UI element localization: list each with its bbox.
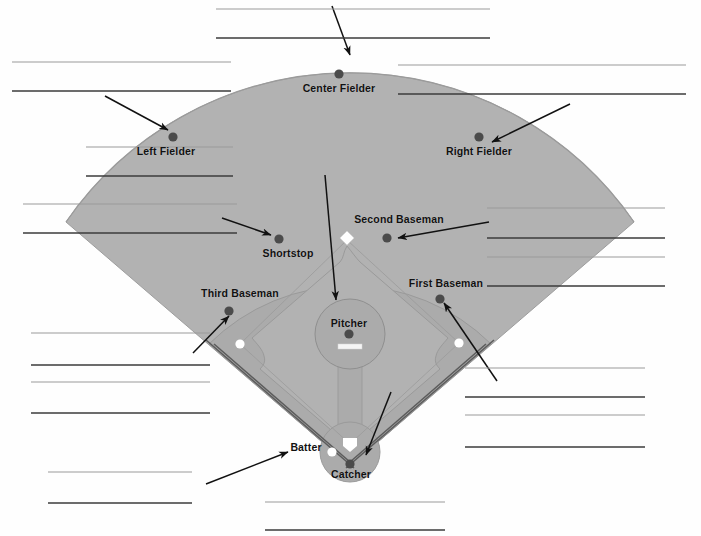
label-first-baseman: First Baseman [409,277,483,289]
label-pitcher: Pitcher [331,317,368,329]
pitching-rubber [338,344,362,349]
marker-third-baseman [224,306,233,315]
arrow-left-fielder [105,96,168,130]
marker-first-baseman [435,294,444,303]
baseball-field-diagram [0,0,701,536]
label-third-baseman: Third Baseman [201,287,279,299]
marker-pitcher [344,329,353,338]
label-second-baseman: Second Baseman [354,213,444,225]
third-base [235,339,244,348]
arrow-center-fielder [332,6,350,55]
label-center-fielder: Center Fielder [303,82,376,94]
marker-center-fielder [334,69,343,78]
marker-shortstop [274,234,283,243]
arrow-batter [206,452,288,484]
label-shortstop: Shortstop [263,247,314,259]
label-left-fielder: Left Fielder [137,145,195,157]
worksheet-page: Center FielderLeft FielderRight FielderS… [0,0,701,536]
marker-second-baseman [382,233,391,242]
label-catcher: Catcher [331,468,371,480]
marker-left-fielder [168,132,177,141]
first-base [454,338,463,347]
marker-right-fielder [474,132,483,141]
batters-box-marker [327,447,336,456]
label-right-fielder: Right Fielder [446,145,512,157]
label-batter: Batter [290,441,321,453]
